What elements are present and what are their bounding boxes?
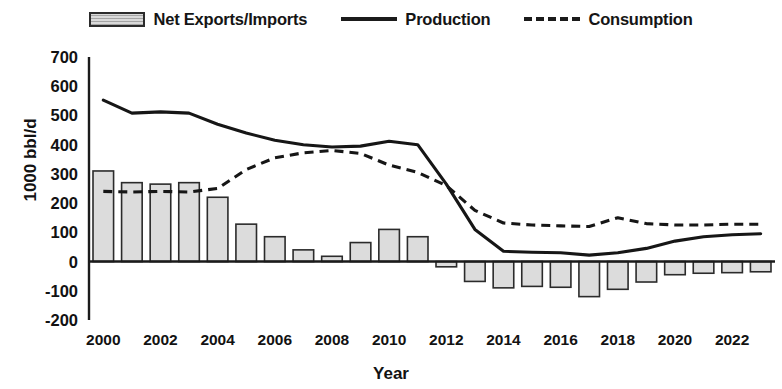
x-axis-tick-label: 2020 xyxy=(658,331,692,348)
x-axis-tick-label: 2012 xyxy=(429,331,463,348)
x-axis-tick-label: 2018 xyxy=(601,331,636,348)
bar xyxy=(465,262,486,282)
bar xyxy=(636,262,657,282)
x-axis-tick-label: 2000 xyxy=(86,331,120,348)
bar xyxy=(350,243,371,262)
y-axis-tick-label: 0 xyxy=(69,253,78,271)
line-series-production xyxy=(103,100,760,255)
bar xyxy=(550,262,571,288)
bar xyxy=(93,171,114,262)
y-axis-tick-label: 500 xyxy=(50,106,78,124)
y-axis-tick-label: 400 xyxy=(50,136,78,154)
bar xyxy=(722,262,743,273)
x-axis-tick-label: 2006 xyxy=(258,331,293,348)
x-axis-tick-label: 2016 xyxy=(543,331,578,348)
y-axis-tick-label: -200 xyxy=(45,311,78,329)
bar xyxy=(207,197,228,261)
bar xyxy=(293,250,314,262)
bar xyxy=(750,262,771,272)
chart-canvas: 7006005004003002001000-100-200 200020022… xyxy=(0,0,782,389)
x-axis-tick-label: 2004 xyxy=(200,331,235,348)
chart-figure: Net Exports/Imports Production Consumpti… xyxy=(0,0,782,389)
bar xyxy=(665,262,686,275)
y-axis-tick-labels: 7006005004003002001000-100-200 xyxy=(45,48,78,329)
y-axis-tick-label: 700 xyxy=(50,48,78,66)
x-axis-tick-label: 2014 xyxy=(486,331,521,348)
bar xyxy=(493,262,514,288)
bar xyxy=(236,224,257,261)
plot-area: 7006005004003002001000-100-200 200020022… xyxy=(0,0,782,389)
bar xyxy=(407,237,428,262)
y-axis-tick-label: -100 xyxy=(45,282,78,300)
y-axis-tick-label: 100 xyxy=(50,223,78,241)
x-axis-tick-label: 2010 xyxy=(372,331,406,348)
y-axis-tick-label: 600 xyxy=(50,77,78,95)
bar xyxy=(179,183,200,262)
y-axis-tick-label: 300 xyxy=(50,165,78,183)
bar xyxy=(150,184,171,261)
x-axis-tick-label: 2022 xyxy=(715,331,749,348)
x-axis-tick-label: 2008 xyxy=(315,331,350,348)
bar xyxy=(693,262,714,274)
bar xyxy=(265,237,286,262)
x-axis-tick-label: 2002 xyxy=(143,331,177,348)
bar xyxy=(122,183,143,262)
y-axis-tick-label: 200 xyxy=(50,194,78,212)
bar xyxy=(522,262,543,287)
x-axis-tick-labels: 2000200220042006200820102012201420162018… xyxy=(86,331,749,348)
bar xyxy=(579,262,600,297)
bar xyxy=(379,229,400,261)
bar xyxy=(608,262,629,290)
